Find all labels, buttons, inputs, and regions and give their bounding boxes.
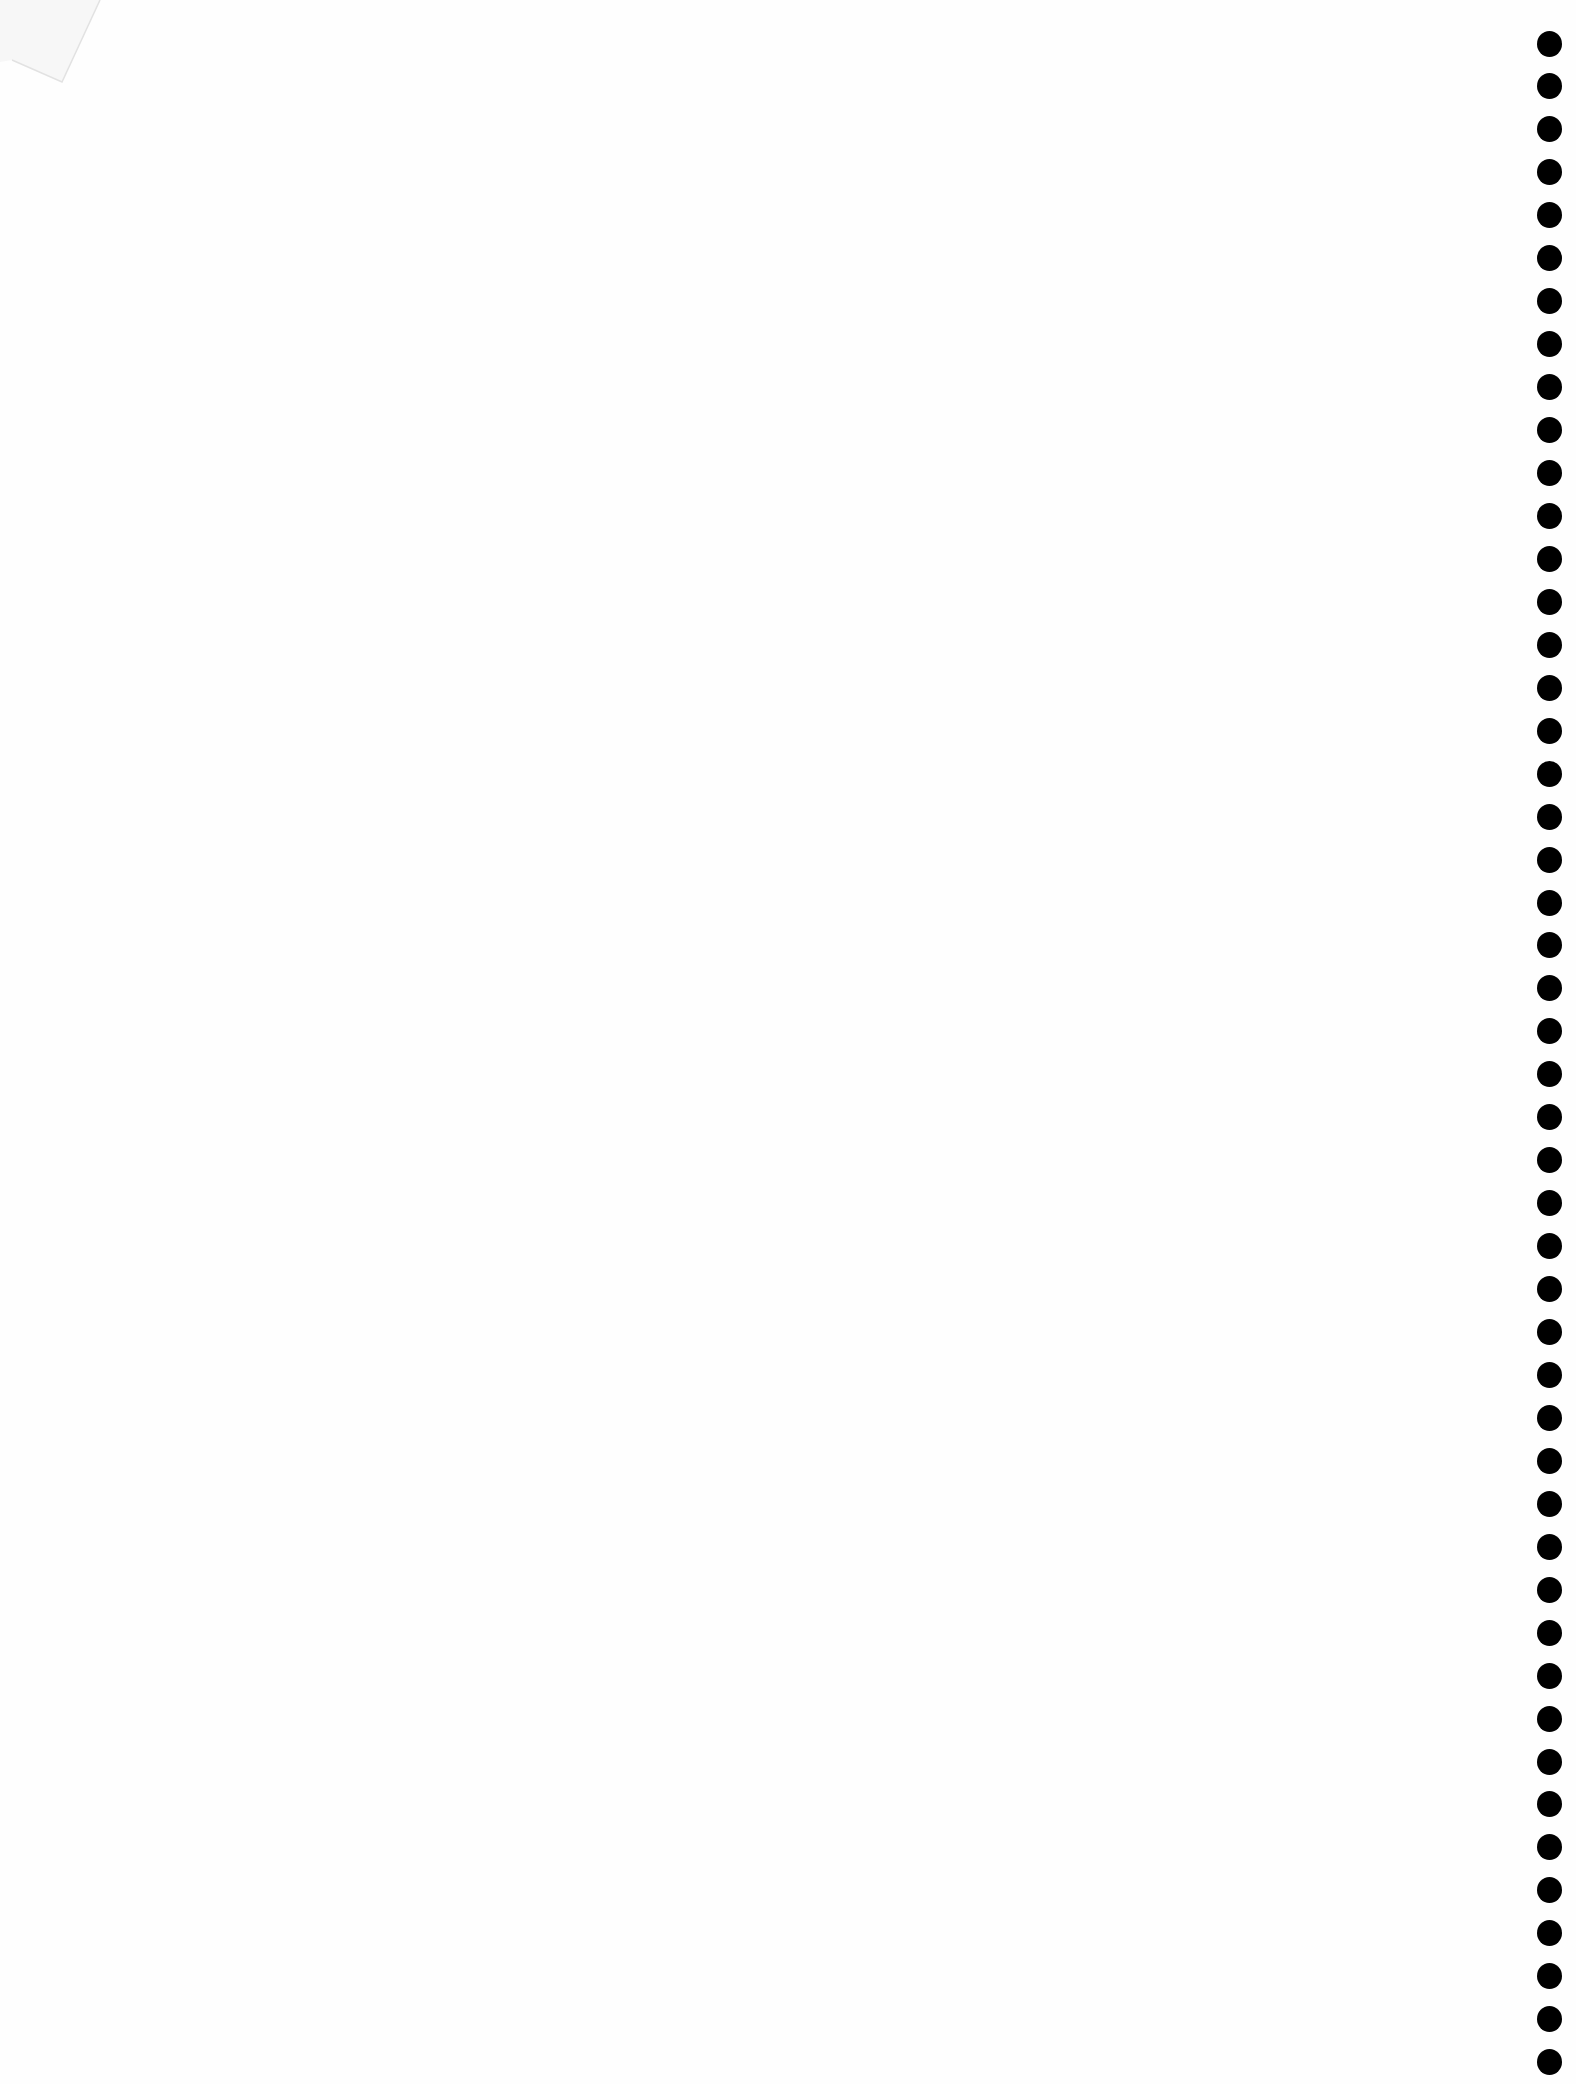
binding-hole: [1537, 331, 1562, 357]
binding-hole: [1537, 1577, 1562, 1603]
binding-hole: [1537, 1362, 1562, 1388]
binding-hole: [1537, 1620, 1562, 1646]
binding-hole: [1537, 2049, 1562, 2075]
binding-hole: [1537, 675, 1562, 701]
binding-hole: [1537, 1706, 1562, 1732]
binding-hole: [1537, 932, 1562, 958]
binding-hole: [1537, 159, 1562, 185]
binding-hole: [1537, 116, 1562, 142]
binding-hole: [1537, 1663, 1562, 1689]
binding-hole: [1537, 31, 1562, 57]
binding-hole: [1537, 1920, 1562, 1946]
binding-hole: [1537, 1061, 1562, 1087]
binding-hole: [1537, 847, 1562, 873]
binding-hole: [1537, 804, 1562, 830]
binding-hole: [1537, 417, 1562, 443]
binding-hole: [1537, 718, 1562, 744]
binding-hole: [1537, 460, 1562, 486]
binding-hole: [1537, 1491, 1562, 1517]
binding-hole: [1537, 73, 1562, 99]
binding-hole: [1537, 1448, 1562, 1474]
binding-hole: [1537, 1147, 1562, 1173]
binding-hole: [1537, 1534, 1562, 1560]
binding-hole: [1537, 1018, 1562, 1044]
binding-hole: [1537, 374, 1562, 400]
binding-hole: [1537, 1877, 1562, 1903]
binding-hole: [1537, 202, 1562, 228]
binding-hole: [1537, 632, 1562, 658]
binding-hole: [1537, 1834, 1562, 1860]
binding-hole: [1537, 1405, 1562, 1431]
binding-hole: [1537, 975, 1562, 1001]
blank-page: [0, 0, 1576, 2084]
binding-hole: [1537, 1233, 1562, 1259]
binding-hole: [1537, 1276, 1562, 1302]
folded-corner: [0, 0, 110, 90]
binding-hole: [1537, 245, 1562, 271]
binding-hole: [1537, 1104, 1562, 1130]
binding-hole: [1537, 1963, 1562, 1989]
binding-hole: [1537, 1791, 1562, 1817]
binding-hole: [1537, 546, 1562, 572]
binding-hole: [1537, 288, 1562, 314]
binding-hole: [1537, 589, 1562, 615]
binding-hole: [1537, 1749, 1562, 1775]
binding-hole: [1537, 1319, 1562, 1345]
binding-hole: [1537, 2006, 1562, 2032]
binding-hole: [1537, 761, 1562, 787]
binding-holes: [1537, 0, 1563, 2084]
binding-hole: [1537, 503, 1562, 529]
binding-hole: [1537, 1190, 1562, 1216]
binding-hole: [1537, 890, 1562, 916]
